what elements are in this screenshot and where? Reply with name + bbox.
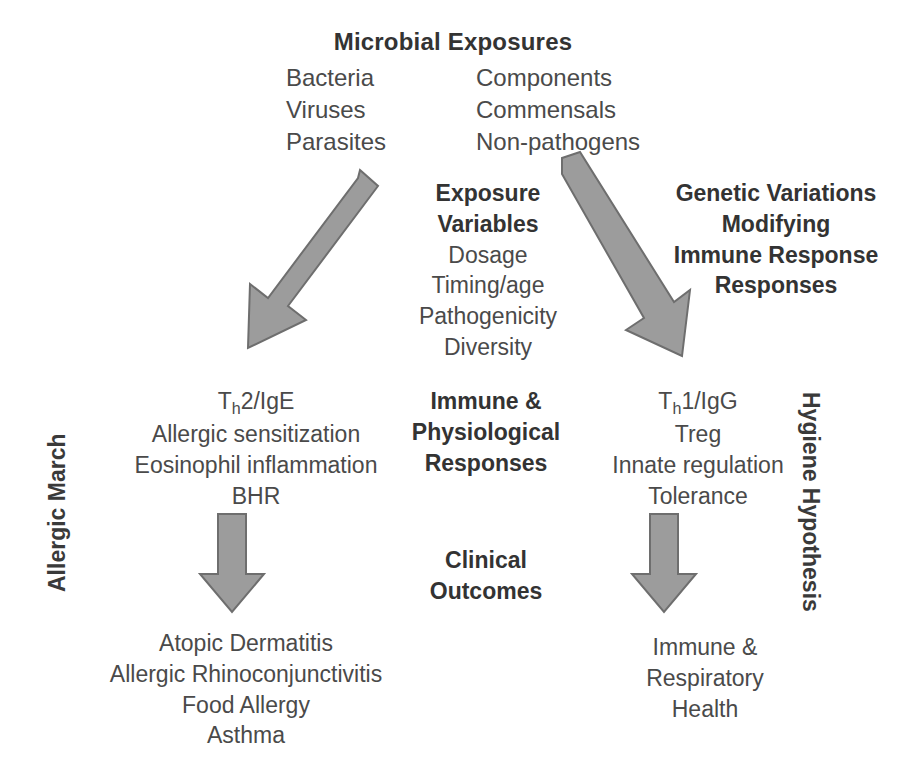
list-item: BHR bbox=[86, 481, 426, 512]
diagram-canvas: Microbial Exposures Bacteria Viruses Par… bbox=[0, 0, 906, 759]
list-item: Genetic Variations bbox=[648, 178, 904, 209]
microbial-exposures-column-left: Bacteria Viruses Parasites bbox=[286, 62, 476, 158]
list-item: Immune & bbox=[396, 386, 576, 417]
th2-label-subscript: h bbox=[232, 399, 241, 417]
page-title: Microbial Exposures bbox=[0, 28, 906, 56]
list-item: Commensals bbox=[476, 94, 706, 126]
list-item: Allergic sensitization bbox=[86, 419, 426, 450]
exposure-variables-heading-line2: Variables bbox=[378, 209, 598, 240]
th2-response-block: Th2/IgE Allergic sensitization Eosinophi… bbox=[86, 386, 426, 512]
th2-label-suffix: 2/IgE bbox=[241, 388, 295, 414]
list-item: Health bbox=[570, 694, 840, 725]
exposure-variables-block: Exposure Variables Dosage Timing/age Pat… bbox=[378, 178, 598, 363]
list-item: Immune & bbox=[570, 632, 840, 663]
list-item: Responses bbox=[648, 270, 904, 301]
list-item: Eosinophil inflammation bbox=[86, 450, 426, 481]
list-item: Modifying bbox=[648, 209, 904, 240]
arrow-down-right-column-icon bbox=[628, 512, 700, 614]
arrow-down-left-column-icon bbox=[196, 512, 268, 614]
th1-label-suffix: 1/IgG bbox=[681, 388, 737, 414]
list-item: Viruses bbox=[286, 94, 476, 126]
exposure-variables-heading-line1: Exposure bbox=[378, 178, 598, 209]
th1-label-prefix: T bbox=[658, 388, 672, 414]
microbial-exposures-column-right: Components Commensals Non-pathogens bbox=[476, 62, 706, 158]
list-item: Clinical bbox=[396, 545, 576, 576]
clinical-outcomes-block: Clinical Outcomes bbox=[396, 545, 576, 607]
list-item: Bacteria bbox=[286, 62, 476, 94]
list-item: Immune Response bbox=[648, 240, 904, 271]
list-item: Timing/age bbox=[378, 270, 598, 301]
arrow-diagonal-down-left-icon bbox=[232, 160, 392, 360]
healthy-outcomes-block: Immune & Respiratory Health bbox=[570, 632, 840, 724]
list-item: Allergic Rhinoconjunctivitis bbox=[66, 659, 426, 690]
immune-physiological-responses-block: Immune & Physiological Responses bbox=[396, 386, 576, 478]
th2-label-prefix: T bbox=[218, 388, 232, 414]
list-item: Asthma bbox=[66, 720, 426, 751]
list-item: Atopic Dermatitis bbox=[66, 628, 426, 659]
list-item: Pathogenicity bbox=[378, 301, 598, 332]
genetic-variations-block: Genetic Variations Modifying Immune Resp… bbox=[648, 178, 904, 301]
allergic-outcomes-block: Atopic Dermatitis Allergic Rhinoconjunct… bbox=[66, 628, 426, 751]
list-item: Parasites bbox=[286, 126, 476, 158]
list-item: Outcomes bbox=[396, 576, 576, 607]
list-item: Physiological bbox=[396, 417, 576, 448]
list-item: Dosage bbox=[378, 240, 598, 271]
list-item: Food Allergy bbox=[66, 690, 426, 721]
list-item: Components bbox=[476, 62, 706, 94]
th2-label: Th2/IgE bbox=[86, 386, 426, 419]
side-label-hygiene-hypothesis: Hygiene Hypothesis bbox=[797, 392, 824, 612]
list-item: Responses bbox=[396, 448, 576, 479]
list-item: Diversity bbox=[378, 332, 598, 363]
side-label-allergic-march: Allergic March bbox=[44, 434, 71, 593]
list-item: Respiratory bbox=[570, 663, 840, 694]
